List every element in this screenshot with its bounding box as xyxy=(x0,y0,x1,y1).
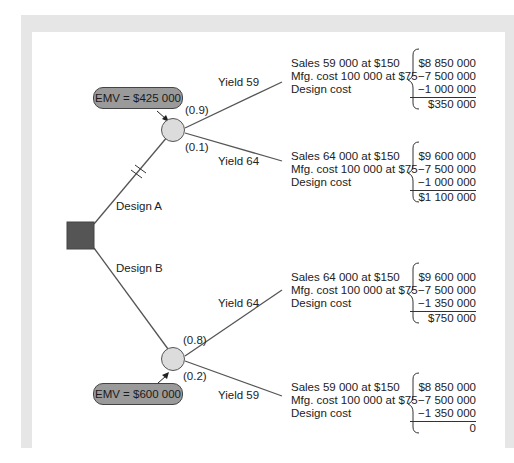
mfg-cost-line: Mfg. cost 100 000 at $75 xyxy=(291,70,418,83)
net-result: $350 000 xyxy=(410,97,476,111)
design-cost-value: −1 350 000 xyxy=(410,297,476,310)
yield-label-b2: Yield 59 xyxy=(218,389,259,402)
sales-line: Sales 64 000 at $150 xyxy=(291,150,418,163)
prob-a-yield64: (0.1) xyxy=(185,141,209,154)
net-result: $750 000 xyxy=(410,311,476,325)
prob-b-yield64: (0.8) xyxy=(183,334,207,347)
mfg-cost-line: Mfg. cost 100 000 at $75 xyxy=(291,163,418,176)
sales-line: Sales 59 000 at $150 xyxy=(291,381,418,394)
mfg-cost-value: −7 500 000 xyxy=(410,284,476,297)
mfg-cost-line: Mfg. cost 100 000 at $75 xyxy=(291,394,418,407)
mfg-cost-line: Mfg. cost 100 000 at $75 xyxy=(291,284,418,297)
chance-node-a xyxy=(162,119,185,142)
outcome-a2-values: $9 600 000 −7 500 000 −1 000 000 $1 100 … xyxy=(410,150,476,204)
yield-label-a2: Yield 64 xyxy=(218,155,259,168)
outcome-a1-description: Sales 59 000 at $150 Mfg. cost 100 000 a… xyxy=(291,57,418,96)
prune-mark-1 xyxy=(131,170,142,178)
prob-b-yield59: (0.2) xyxy=(183,370,207,383)
design-cost-line: Design cost xyxy=(291,407,418,420)
outcome-a2-description: Sales 64 000 at $150 Mfg. cost 100 000 a… xyxy=(291,150,418,189)
design-cost-value: −1 350 000 xyxy=(410,407,476,420)
sales-value: $9 600 000 xyxy=(410,271,476,284)
sales-line: Sales 64 000 at $150 xyxy=(291,271,418,284)
mfg-cost-value: −7 500 000 xyxy=(410,70,476,83)
branch-design-b-label: Design B xyxy=(116,262,163,275)
outcome-b1-description: Sales 64 000 at $150 Mfg. cost 100 000 a… xyxy=(291,271,418,310)
net-result: 0 xyxy=(410,421,476,435)
outcome-b1-values: $9 600 000 −7 500 000 −1 350 000 $750 00… xyxy=(410,271,476,325)
net-result: $1 100 000 xyxy=(410,190,476,204)
yield-label-b1: Yield 64 xyxy=(218,297,259,310)
chance-node-b xyxy=(162,348,185,371)
design-cost-value: −1 000 000 xyxy=(410,83,476,96)
yield-label-a1: Yield 59 xyxy=(218,76,259,89)
emv-badge-design-b: EMV = $600 000 xyxy=(93,383,183,405)
sales-value: $8 850 000 xyxy=(410,57,476,70)
sales-line: Sales 59 000 at $150 xyxy=(291,57,418,70)
sales-value: $8 850 000 xyxy=(410,381,476,394)
sales-value: $9 600 000 xyxy=(410,150,476,163)
mfg-cost-value: −7 500 000 xyxy=(410,163,476,176)
prob-a-yield59: (0.9) xyxy=(185,104,209,117)
design-cost-line: Design cost xyxy=(291,83,418,96)
design-cost-line: Design cost xyxy=(291,297,418,310)
branch-design-a-label: Design A xyxy=(116,200,162,213)
prune-mark-2 xyxy=(135,165,146,173)
mfg-cost-value: −7 500 000 xyxy=(410,394,476,407)
decision-node xyxy=(67,222,94,249)
design-cost-value: −1 000 000 xyxy=(410,176,476,189)
outcome-b2-values: $8 850 000 −7 500 000 −1 350 000 0 xyxy=(410,381,476,435)
emv-badge-design-a: EMV = $425 000 xyxy=(93,87,183,109)
outcome-b2-description: Sales 59 000 at $150 Mfg. cost 100 000 a… xyxy=(291,381,418,420)
design-cost-line: Design cost xyxy=(291,176,418,189)
outcome-a1-values: $8 850 000 −7 500 000 −1 000 000 $350 00… xyxy=(410,57,476,111)
